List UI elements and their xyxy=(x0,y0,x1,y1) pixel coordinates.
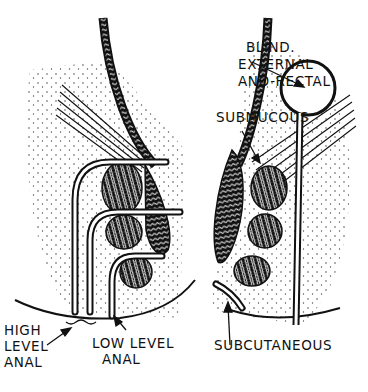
left-section xyxy=(15,18,195,319)
label-high-line1: HIGH xyxy=(4,323,41,337)
label-blind-line1: BLIND. xyxy=(246,40,295,54)
label-subcutaneous: SUBCUTANEOUS xyxy=(214,338,332,352)
label-high-line3: ANAL xyxy=(4,355,43,369)
label-submucous: SUBMUCOUS xyxy=(216,110,309,124)
label-blind-line2: EXTERNAL xyxy=(238,57,313,71)
label-blind-line3: ANO-RECTAL xyxy=(238,74,331,88)
label-high-line2: LEVEL xyxy=(4,339,48,353)
label-low-line2: ANAL xyxy=(102,352,141,366)
label-low-line1: LOW LEVEL xyxy=(92,336,174,350)
